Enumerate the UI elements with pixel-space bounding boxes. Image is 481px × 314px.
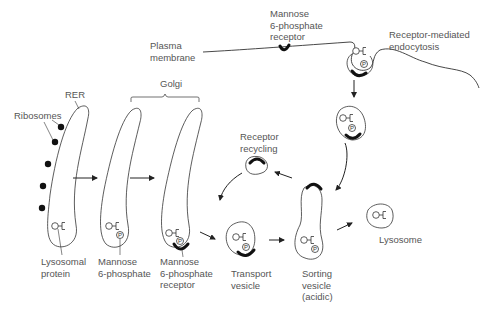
- label-m6p-receptor-bottom: Mannose 6-phosphate receptor: [160, 256, 213, 291]
- label-mannose-6-phosphate: Mannose 6-phosphate: [98, 256, 151, 279]
- label-lysosome: Lysosome: [379, 234, 422, 246]
- lysosome: [367, 204, 393, 228]
- label-transport-vesicle: Transport vesicle: [231, 268, 271, 291]
- endocytic-pit: [347, 54, 373, 76]
- golgi-bracket: [131, 94, 199, 102]
- membrane-receptor: [280, 45, 289, 50]
- ribosome: [40, 183, 46, 189]
- label-lysosomal-protein: Lysosomal protein: [41, 256, 86, 279]
- label-receptor-recycling: Receptor recycling: [240, 131, 279, 154]
- transport-vesicle: [226, 222, 255, 255]
- label-plasma-membrane: Plasma membrane: [150, 40, 195, 63]
- label-m6p-receptor-top: Mannose 6-phosphate receptor: [270, 8, 323, 43]
- golgi-cisterna-2: [162, 108, 203, 247]
- label-sorting-vesicle: Sorting vesicle (acidic): [302, 268, 333, 303]
- label-receptor-mediated-endocytosis: Receptor-mediated endocytosis: [389, 29, 470, 52]
- label-golgi: Golgi: [160, 78, 182, 90]
- label-rer: RER: [65, 89, 85, 101]
- label-ribosomes: Ribosomes: [14, 110, 62, 122]
- lysosomal-targeting-diagram: P: [0, 0, 481, 314]
- ribosome: [45, 161, 51, 167]
- ribosome: [39, 205, 45, 211]
